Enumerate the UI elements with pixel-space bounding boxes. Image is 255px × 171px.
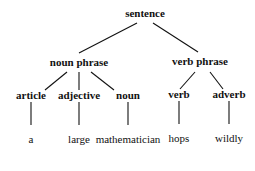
- node-sentence: sentence: [125, 7, 165, 19]
- tree-edge: [45, 72, 67, 90]
- leaf-mathematician: mathematician: [96, 133, 161, 145]
- node-adverb: adverb: [213, 88, 246, 100]
- node-verb-phrase: verb phrase: [172, 55, 228, 67]
- node-verb: verb: [168, 88, 189, 100]
- leaf-large: large: [68, 133, 90, 145]
- node-adjective: adjective: [58, 89, 100, 101]
- tree-edge: [180, 72, 195, 89]
- node-noun-phrase: noun phrase: [50, 56, 108, 68]
- tree-edge: [91, 72, 114, 90]
- tree-edge: [153, 23, 198, 52]
- tree-edge: [79, 23, 137, 53]
- node-noun: noun: [116, 89, 140, 101]
- tree-edges: [0, 0, 255, 171]
- tree-edge: [210, 72, 223, 89]
- node-article: article: [16, 89, 46, 101]
- leaf-hops: hops: [169, 132, 190, 144]
- leaf-wildly: wildly: [215, 132, 243, 144]
- leaf-a: a: [29, 133, 34, 145]
